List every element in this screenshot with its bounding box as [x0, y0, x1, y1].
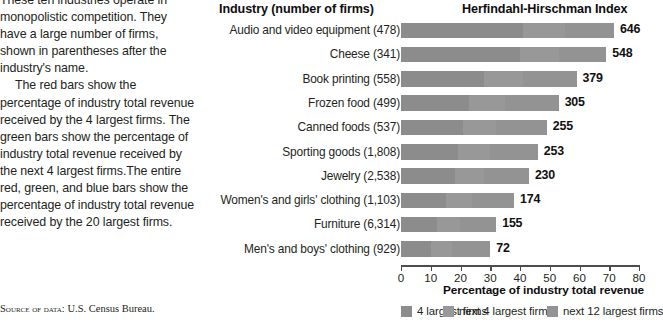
stacked-bar — [401, 120, 547, 136]
bar-value-label: 646 — [620, 22, 640, 36]
bar-value-label: 155 — [502, 216, 522, 230]
stacked-bar — [401, 95, 559, 111]
axis-tick-label: 0 — [398, 271, 404, 284]
legend-item[interactable]: next 4 largest firms — [443, 305, 553, 317]
bar-value-label: 305 — [565, 95, 585, 109]
bar-segment — [484, 168, 529, 184]
industry-label: Jewelry (2,538) — [321, 169, 400, 183]
bar-segment — [458, 144, 491, 160]
stacked-bar — [401, 241, 490, 257]
bar-segment — [520, 47, 559, 63]
axis-tick-label: 10 — [424, 271, 437, 284]
bar-segment — [505, 95, 559, 111]
legend-swatch-icon — [443, 306, 454, 317]
bar-segment — [401, 217, 437, 233]
bar-segment — [565, 23, 614, 39]
legend-label: next 12 largest firms — [563, 305, 663, 317]
stacked-bar — [401, 217, 496, 233]
legend-swatch-icon — [547, 306, 558, 317]
plot-area: Audio and video equipment (478)646Cheese… — [205, 20, 644, 265]
source-note-label: Source of data: — [0, 303, 65, 314]
chart-row: Jewelry (2,538)230 — [205, 166, 644, 190]
bar-segment — [460, 217, 496, 233]
chart: Industry (number of firms) Herfindahl-Hi… — [205, 0, 644, 325]
description-paragraph-2: The red bars show the percentage of indu… — [0, 77, 196, 231]
bar-segment — [490, 144, 538, 160]
chart-legend: 4 largest firmsnext 4 largest firmsnext … — [401, 305, 644, 321]
industry-label: Frozen food (499) — [308, 96, 400, 110]
bar-value-label: 548 — [612, 46, 632, 60]
industry-label: Audio and video equipment (478) — [229, 23, 400, 37]
source-note-value: U.S. Census Bureau. — [67, 303, 154, 314]
bar-segment — [431, 241, 452, 257]
bar-segment — [401, 144, 458, 160]
stacked-bar — [401, 168, 529, 184]
bar-segment — [472, 193, 514, 209]
legend-item[interactable]: next 12 largest firms — [547, 305, 663, 317]
bar-value-label: 255 — [553, 119, 573, 133]
bar-segment — [401, 23, 523, 39]
bar-segment — [469, 95, 505, 111]
industry-label: Book printing (558) — [302, 72, 400, 86]
stacked-bar — [401, 193, 514, 209]
chart-row: Women's and girls' clothing (1,103)174 — [205, 190, 644, 214]
bar-segment — [401, 71, 484, 87]
bar-value-label: 379 — [583, 71, 603, 85]
x-axis: 01020304050607080 — [401, 265, 639, 267]
chart-row: Cheese (341)548 — [205, 44, 644, 68]
bar-segment — [484, 71, 523, 87]
bar-value-label: 72 — [496, 241, 509, 255]
bar-segment — [437, 217, 461, 233]
column-header-hhi: Herfindahl-Hirschman Index — [462, 2, 627, 16]
bar-segment — [446, 193, 473, 209]
bar-segment — [401, 47, 520, 63]
bar-segment — [401, 168, 455, 184]
chart-row: Frozen food (499)305 — [205, 93, 644, 117]
bar-segment — [463, 120, 496, 136]
bar-segment — [523, 71, 577, 87]
stacked-bar — [401, 71, 577, 87]
bar-segment — [559, 47, 607, 63]
bar-segment — [401, 241, 431, 257]
industry-label: Men's and boys' clothing (929) — [244, 242, 400, 256]
legend-swatch-icon — [401, 306, 412, 317]
stacked-bar — [401, 23, 614, 39]
bar-segment — [452, 241, 491, 257]
bar-value-label: 230 — [535, 168, 555, 182]
chart-row: Audio and video equipment (478)646 — [205, 20, 644, 44]
chart-row: Book printing (558)379 — [205, 69, 644, 93]
stacked-bar — [401, 144, 538, 160]
industry-label: Cheese (341) — [330, 47, 400, 61]
explanatory-text: These ten industries operate in monopoli… — [0, 0, 196, 231]
industry-label: Sporting goods (1,808) — [282, 145, 400, 159]
bar-segment — [401, 193, 446, 209]
x-axis-title: Percentage of industry total revenue — [443, 283, 644, 297]
column-header-industry: Industry (number of firms) — [219, 2, 374, 16]
chart-row: Men's and boys' clothing (929)72 — [205, 239, 644, 263]
chart-row: Canned foods (537)255 — [205, 117, 644, 141]
bar-segment — [401, 95, 469, 111]
chart-row: Sporting goods (1,808)253 — [205, 142, 644, 166]
industry-label: Canned foods (537) — [298, 120, 400, 134]
bar-segment — [455, 168, 485, 184]
bar-segment — [401, 120, 463, 136]
legend-label: next 4 largest firms — [459, 305, 553, 317]
bar-value-label: 253 — [544, 144, 564, 158]
bar-value-label: 174 — [520, 192, 540, 206]
chart-row: Furniture (6,314)155 — [205, 214, 644, 238]
bar-segment — [496, 120, 547, 136]
industry-label: Women's and girls' clothing (1,103) — [220, 193, 400, 207]
description-paragraph-1: These ten industries operate in monopoli… — [0, 0, 196, 77]
bar-segment — [523, 23, 565, 39]
industry-label: Furniture (6,314) — [314, 217, 400, 231]
stacked-bar — [401, 47, 606, 63]
